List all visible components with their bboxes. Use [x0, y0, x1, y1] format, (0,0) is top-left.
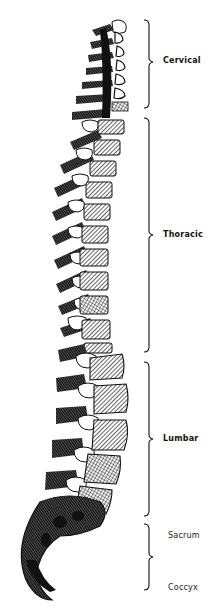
label-thoracic: Thoracic: [163, 230, 203, 240]
label-lumbar: Lumbar: [163, 434, 198, 444]
bracket-cervical: [144, 20, 153, 108]
label-sacrum: Sacrum: [168, 531, 200, 541]
label-cervical: Cervical: [163, 56, 201, 66]
label-coccyx: Coccyx: [168, 583, 198, 593]
bracket-thoracic: [144, 118, 153, 352]
sacrum-coccyx: [21, 496, 105, 600]
thoracic-vertebrae: [52, 120, 124, 353]
region-brackets: [144, 20, 153, 590]
cervical-vertebrae: [72, 20, 128, 120]
bracket-lumbar: [144, 362, 153, 516]
spine-illustration: [0, 0, 216, 616]
lumbar-vertebrae: [45, 344, 128, 514]
spine-diagram: Cervical Thoracic Lumbar Sacrum Coccyx: [0, 0, 216, 616]
bracket-sacrum-coccyx: [144, 524, 153, 590]
